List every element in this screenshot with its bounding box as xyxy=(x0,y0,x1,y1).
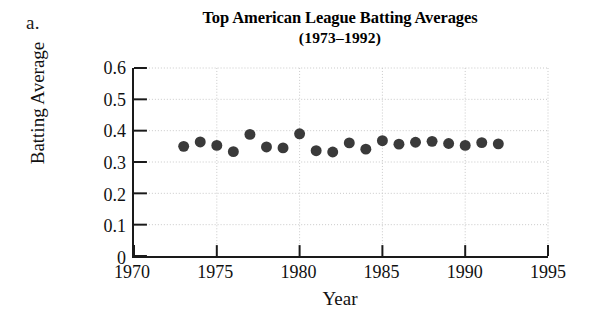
data-points-layer xyxy=(134,68,548,256)
data-point xyxy=(344,137,355,148)
data-point xyxy=(261,142,272,153)
data-point xyxy=(443,138,454,149)
data-point xyxy=(228,146,239,157)
data-point xyxy=(294,128,305,139)
plot-area xyxy=(132,68,548,258)
x-axis-tick-label: 1980 xyxy=(263,262,333,282)
data-point xyxy=(278,142,289,153)
data-point xyxy=(493,138,504,149)
y-axis-tick-label: 0.3 xyxy=(70,154,126,172)
data-point xyxy=(360,144,371,155)
y-axis-tick-label: 0.6 xyxy=(70,59,126,77)
chart-page: a. Top American League Batting Averages … xyxy=(0,0,593,316)
chart-title-block: Top American League Batting Averages (19… xyxy=(130,8,550,48)
data-point xyxy=(460,140,471,151)
y-axis-tick-label: 0.1 xyxy=(70,217,126,235)
data-point xyxy=(311,145,322,156)
chart-subtitle: (1973–1992) xyxy=(130,28,550,48)
data-point xyxy=(178,141,189,152)
x-axis-tick-label: 1975 xyxy=(180,262,250,282)
y-axis-tick-label: 0.2 xyxy=(70,186,126,204)
x-axis-label: Year xyxy=(132,288,548,310)
x-axis-tick-label: 1990 xyxy=(430,262,500,282)
y-axis-tick-label: 0.5 xyxy=(70,91,126,109)
data-point xyxy=(393,139,404,150)
y-axis-tick-labels: 00.10.20.30.40.50.6 xyxy=(64,68,126,258)
x-axis-tick-labels: 197019751980198519901995 xyxy=(132,262,548,286)
data-point xyxy=(244,129,255,140)
data-point xyxy=(377,135,388,146)
data-point xyxy=(211,140,222,151)
x-axis-tick-label: 1995 xyxy=(513,262,583,282)
x-axis-tick-label: 1970 xyxy=(97,262,167,282)
data-point xyxy=(427,136,438,147)
page-title: Top American League Batting Averages xyxy=(130,8,550,28)
y-axis-label: Batting Average xyxy=(27,3,49,203)
data-point xyxy=(327,147,338,158)
y-axis-tick-label: 0.4 xyxy=(70,122,126,140)
data-point xyxy=(410,137,421,148)
x-axis-tick-label: 1985 xyxy=(347,262,417,282)
data-point xyxy=(195,137,206,148)
data-point xyxy=(476,137,487,148)
